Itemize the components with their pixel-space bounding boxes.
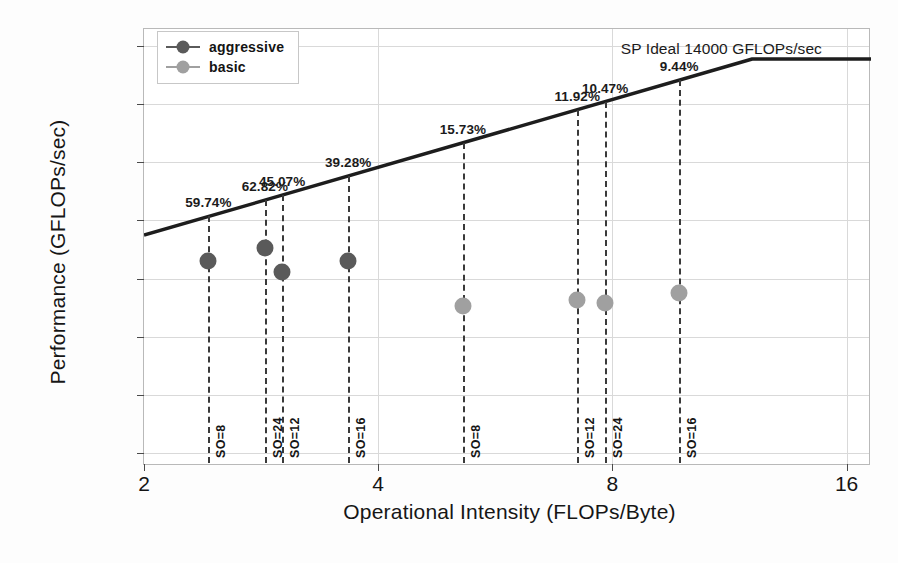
roofline-chart-figure: Performance (GFLOPs/sec) Operational Int… — [0, 0, 898, 563]
x-tick-mark — [378, 464, 379, 471]
gridline-vertical — [378, 29, 379, 464]
legend-marker-icon — [166, 60, 200, 74]
data-point-percent-label: 59.74% — [185, 195, 231, 210]
y-tick-mark — [137, 453, 144, 454]
drop-line — [348, 176, 350, 463]
gridline-horizontal — [144, 453, 869, 454]
plot-area: 12825651210242048409681921638424816 59.7… — [143, 28, 870, 465]
legend-item-aggressive[interactable]: aggressive — [166, 37, 284, 57]
legend-marker-icon — [166, 40, 200, 54]
drop-line — [605, 102, 607, 463]
gridline-horizontal — [144, 395, 869, 396]
data-point-basic[interactable] — [454, 298, 471, 315]
so-label: SO=12 — [288, 417, 302, 458]
y-tick-mark — [137, 279, 144, 280]
x-tick-label: 2 — [138, 472, 150, 496]
data-point-percent-label: 15.73% — [440, 122, 486, 137]
so-label: SO=24 — [611, 417, 625, 458]
data-point-aggressive[interactable] — [340, 253, 357, 270]
roofline-curve — [144, 29, 871, 466]
y-tick-mark — [137, 162, 144, 163]
y-tick-mark — [137, 220, 144, 221]
data-point-percent-label: 10.47% — [582, 81, 628, 96]
data-point-aggressive[interactable] — [200, 253, 217, 270]
data-point-basic[interactable] — [569, 292, 586, 309]
y-tick-mark — [137, 395, 144, 396]
data-point-percent-label: 39.28% — [325, 155, 371, 170]
gridline-horizontal — [144, 162, 869, 163]
legend-item-label: aggressive — [209, 39, 284, 55]
x-tick-mark — [847, 464, 848, 471]
gridline-horizontal — [144, 104, 869, 105]
so-label: SO=8 — [469, 424, 483, 458]
so-label: SO=8 — [214, 424, 228, 458]
x-tick-label: 16 — [835, 472, 858, 496]
data-point-basic[interactable] — [597, 295, 614, 312]
y-tick-mark — [137, 104, 144, 105]
x-tick-label: 4 — [372, 472, 384, 496]
y-axis-title: Performance (GFLOPs/sec) — [46, 52, 70, 452]
roofline-annotation: SP Ideal 14000 GFLOPs/sec — [621, 40, 822, 58]
gridline-vertical — [847, 29, 848, 464]
gridline-horizontal — [144, 337, 869, 338]
gridline-horizontal — [144, 279, 869, 280]
gridline-horizontal — [144, 220, 869, 221]
so-label: SO=12 — [583, 417, 597, 458]
drop-line — [577, 110, 579, 463]
x-tick-label: 8 — [607, 472, 619, 496]
x-tick-mark — [612, 464, 613, 471]
data-point-basic[interactable] — [671, 285, 688, 302]
so-label: SO=16 — [354, 417, 368, 458]
data-point-percent-label: 9.44% — [660, 59, 699, 74]
y-tick-mark — [137, 46, 144, 47]
legend-item-basic[interactable]: basic — [166, 57, 284, 77]
drop-line — [679, 80, 681, 463]
data-point-percent-label: 45.07% — [259, 174, 305, 189]
so-label: SO=16 — [685, 417, 699, 458]
y-tick-mark — [137, 337, 144, 338]
so-label: SO=24 — [271, 417, 285, 458]
data-point-aggressive[interactable] — [274, 263, 291, 280]
legend-item-label: basic — [209, 59, 246, 75]
data-point-aggressive[interactable] — [256, 239, 273, 256]
x-axis-title: Operational Intensity (FLOPs/Byte) — [143, 500, 876, 524]
x-tick-mark — [144, 464, 145, 471]
legend: aggressivebasic — [157, 31, 299, 84]
